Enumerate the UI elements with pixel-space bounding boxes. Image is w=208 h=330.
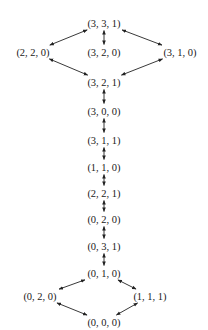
node-n110: (1, 1, 0) <box>87 162 121 174</box>
node-n320: (3, 2, 0) <box>87 47 121 59</box>
edge-n220-n321 <box>49 59 87 75</box>
edge-n331-n310 <box>122 30 162 45</box>
node-n000: (0, 0, 0) <box>87 317 121 329</box>
edge-n010-n020b <box>59 280 85 289</box>
node-n020b: (0, 2, 0) <box>23 291 57 303</box>
node-n020a: (0, 2, 0) <box>87 214 121 226</box>
node-n321: (3, 2, 1) <box>87 77 121 89</box>
node-n031: (0, 3, 1) <box>87 241 121 253</box>
state-graph: (3, 3, 1)(2, 2, 0)(3, 2, 0)(3, 1, 0)(3, … <box>0 0 208 330</box>
node-n331: (3, 3, 1) <box>87 18 121 30</box>
node-n221: (2, 2, 1) <box>87 188 121 200</box>
node-n310: (3, 1, 0) <box>163 47 197 59</box>
node-n220: (2, 2, 0) <box>16 47 50 59</box>
edge-n010-n111 <box>118 280 136 289</box>
node-n111: (1, 1, 1) <box>133 291 167 303</box>
edge-n111-n000 <box>116 303 137 315</box>
nodes-layer: (3, 3, 1)(2, 2, 0)(3, 2, 0)(3, 1, 0)(3, … <box>16 18 197 329</box>
node-n300: (3, 0, 0) <box>87 106 121 118</box>
edge-n331-n220 <box>50 30 87 45</box>
node-n010: (0, 1, 0) <box>87 268 121 280</box>
edge-n310-n321 <box>121 59 162 75</box>
node-n311: (3, 1, 1) <box>87 135 121 147</box>
edge-n020b-n000 <box>57 303 87 315</box>
